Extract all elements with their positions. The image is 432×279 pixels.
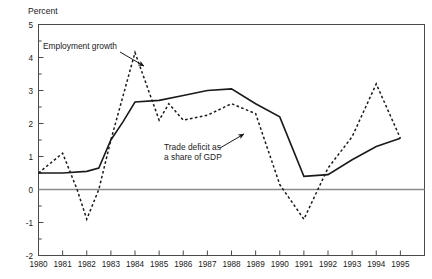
x-axis-tick-label: 1985 (150, 260, 169, 269)
series-line-2 (39, 53, 401, 220)
x-axis-tick-label: 1986 (174, 260, 193, 269)
annotation-label: Employment growth (43, 41, 117, 51)
y-axis-ticks (39, 25, 44, 256)
x-axis-tick-label: 1980 (29, 260, 48, 269)
economic-indicators-line-chart: Percent 543210-1-2 198019811982198319841… (0, 0, 432, 279)
x-axis-tick-label: 1990 (271, 260, 290, 269)
chart-container: Percent 543210-1-2 198019811982198319841… (0, 0, 432, 279)
y-axis-tick-labels: 543210-1-2 (26, 21, 34, 261)
y-axis-tick-label: 2 (28, 120, 33, 129)
x-axis-tick-label: 1993 (343, 260, 362, 269)
x-axis-ticks (39, 251, 401, 256)
x-axis-tick-label: 1989 (247, 260, 266, 269)
y-axis-tick-label: -1 (26, 219, 34, 228)
y-axis-tick-label: 4 (28, 54, 33, 63)
series-line-1 (39, 89, 401, 176)
x-axis-tick-label: 1988 (222, 260, 241, 269)
x-axis-tick-label: 1983 (102, 260, 121, 269)
trade-deficit-annotation: Trade deficit asa share of GDP (164, 134, 244, 162)
x-axis-tick-label: 1995 (391, 260, 410, 269)
y-axis-unit-label: Percent (28, 6, 58, 16)
x-axis-tick-label: 1987 (198, 260, 217, 269)
annotation-arrow (120, 52, 144, 66)
annotation-arrow (220, 134, 244, 148)
x-axis-tick-label: 1994 (367, 260, 386, 269)
annotation-label: a share of GDP (164, 152, 222, 162)
x-axis-tick-label: 1984 (126, 260, 145, 269)
y-axis-tick-label: 1 (28, 153, 33, 162)
data-series-group (39, 53, 401, 220)
y-axis-tick-label: 5 (28, 21, 33, 30)
x-axis-tick-labels: 1980198119821983198419851986198719881989… (29, 260, 410, 269)
plot-area-border (39, 25, 425, 256)
annotation-label: Trade deficit as (164, 142, 221, 152)
x-axis-tick-label: 1981 (54, 260, 73, 269)
x-axis-tick-label: 1982 (78, 260, 97, 269)
plot-frame (39, 25, 425, 256)
y-axis-tick-label: 0 (28, 186, 33, 195)
y-axis-unit-label-text: Percent (28, 6, 58, 16)
y-axis-tick-label: 3 (28, 87, 33, 96)
x-axis-tick-label: 1991 (295, 260, 314, 269)
employment-growth-annotation: Employment growth (43, 41, 144, 66)
x-axis-tick-label: 1992 (319, 260, 338, 269)
